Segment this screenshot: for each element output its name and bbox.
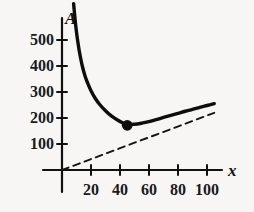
y-axis-tick-label: 500 (8, 32, 54, 48)
y-axis-tick-label: 100 (8, 136, 54, 152)
axes-group (43, 18, 222, 192)
y-axis-tick-label: 200 (8, 110, 54, 126)
cost-function-curve (74, 4, 215, 125)
chart-figure: A x 100200300400500 20406080100 (0, 0, 254, 212)
x-axis-label: x (228, 162, 237, 179)
minimum-point-marker (122, 120, 133, 131)
y-axis-label: A (65, 10, 76, 27)
y-axis-tick-label: 300 (8, 84, 54, 100)
y-axis-tick-label: 400 (8, 58, 54, 74)
x-axis-tick-label: 100 (187, 182, 227, 198)
asymptote-dashed-line (62, 113, 214, 170)
